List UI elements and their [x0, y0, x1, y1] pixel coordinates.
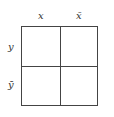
- cell-xbar-y: [61, 27, 98, 66]
- cell-x-y: [22, 27, 60, 66]
- cell-xbar-ybar: [61, 67, 98, 105]
- row-label-y: y: [8, 42, 14, 52]
- cell-x-ybar: [22, 67, 60, 105]
- column-label-x-bar: x̄: [76, 11, 82, 21]
- row-label-y-bar: ȳ: [8, 80, 14, 90]
- column-label-x: x: [38, 11, 44, 21]
- map-grid: [21, 26, 98, 106]
